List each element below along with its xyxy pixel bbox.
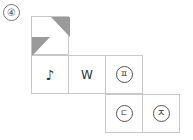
problem-number-label: ④ (3, 4, 20, 21)
net-cell-note: ♪ (31, 55, 69, 94)
net-cell-pieup: ㅍ (105, 55, 143, 94)
net-cell-digeut: ㄷ (105, 94, 143, 133)
w-letter: W (81, 68, 93, 82)
net-cell-top (31, 16, 69, 55)
shaded-triangles-icon (32, 17, 70, 56)
circled-pieup: ㅍ (116, 66, 133, 83)
net-cell-w: W (68, 55, 106, 94)
circled-digeut: ㄷ (116, 105, 133, 122)
net-cell-jieut: ㅈ (142, 94, 180, 133)
circled-jieut: ㅈ (153, 105, 170, 122)
music-note-icon: ♪ (46, 67, 55, 83)
